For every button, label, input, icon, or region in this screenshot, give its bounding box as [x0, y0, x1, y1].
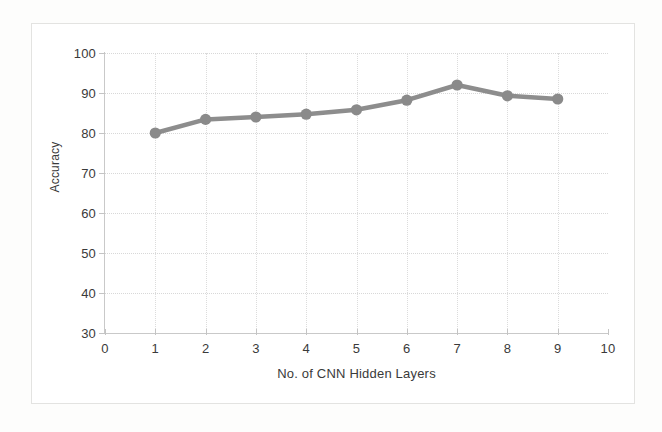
y-tick-label-90: 90 — [56, 86, 96, 101]
y-tick-mark-100 — [99, 53, 105, 54]
gridline-x-6 — [407, 53, 408, 333]
gridline-x-8 — [507, 53, 508, 333]
y-axis-title: Accuracy — [48, 107, 62, 227]
gridline-x-1 — [155, 53, 156, 333]
x-tick-label-10: 10 — [593, 341, 623, 356]
x-axis-title: No. of CNN Hidden Layers — [105, 366, 608, 381]
y-tick-label-30: 30 — [56, 326, 96, 341]
y-tick-mark-70 — [99, 173, 105, 174]
y-tick-mark-60 — [99, 213, 105, 214]
figure-root: 100 90 80 70 60 50 40 30 0 1 2 3 4 5 6 7… — [0, 0, 662, 432]
x-tick-mark-10 — [608, 329, 609, 335]
x-tick-label-6: 6 — [392, 341, 422, 356]
y-tick-mark-90 — [99, 93, 105, 94]
x-tick-mark-5 — [357, 329, 358, 335]
x-tick-label-1: 1 — [140, 341, 170, 356]
x-tick-label-9: 9 — [543, 341, 573, 356]
y-tick-label-40: 40 — [56, 286, 96, 301]
gridline-x-2 — [206, 53, 207, 333]
plot-area — [105, 53, 608, 333]
y-tick-label-100: 100 — [56, 46, 96, 61]
x-tick-mark-6 — [407, 329, 408, 335]
gridline-x-9 — [558, 53, 559, 333]
y-tick-label-60: 60 — [56, 206, 96, 221]
x-tick-label-0: 0 — [90, 341, 120, 356]
y-tick-label-70: 70 — [56, 166, 96, 181]
x-tick-mark-7 — [457, 329, 458, 335]
x-tick-label-8: 8 — [492, 341, 522, 356]
y-axis-line — [104, 52, 105, 334]
x-tick-mark-9 — [558, 329, 559, 335]
gridline-x-7 — [457, 53, 458, 333]
gridline-x-3 — [256, 53, 257, 333]
x-tick-mark-3 — [256, 329, 257, 335]
x-tick-mark-8 — [507, 329, 508, 335]
y-tick-mark-80 — [99, 133, 105, 134]
x-tick-mark-0 — [105, 329, 106, 335]
x-tick-label-5: 5 — [342, 341, 372, 356]
x-tick-label-4: 4 — [291, 341, 321, 356]
x-tick-mark-2 — [206, 329, 207, 335]
x-tick-label-3: 3 — [241, 341, 271, 356]
y-tick-mark-50 — [99, 253, 105, 254]
x-tick-mark-1 — [155, 329, 156, 335]
gridline-x-4 — [306, 53, 307, 333]
y-tick-label-50: 50 — [56, 246, 96, 261]
y-tick-mark-40 — [99, 293, 105, 294]
y-tick-label-80: 80 — [56, 126, 96, 141]
x-tick-label-7: 7 — [442, 341, 472, 356]
x-tick-label-2: 2 — [191, 341, 221, 356]
x-tick-mark-4 — [306, 329, 307, 335]
gridline-x-5 — [357, 53, 358, 333]
